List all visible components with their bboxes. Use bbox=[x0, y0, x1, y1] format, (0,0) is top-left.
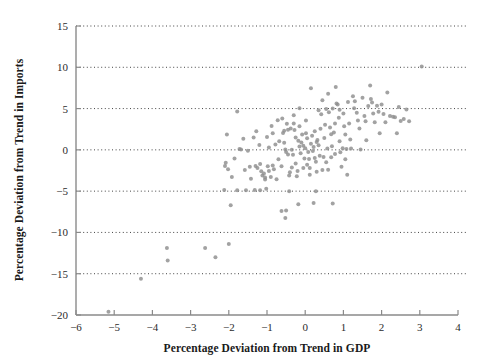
data-point bbox=[253, 188, 257, 192]
data-point bbox=[235, 188, 239, 192]
gridlines-group bbox=[76, 26, 467, 274]
data-point bbox=[294, 135, 298, 139]
data-point bbox=[344, 147, 348, 151]
data-point bbox=[347, 121, 351, 125]
data-point bbox=[314, 160, 318, 164]
x-tick-label: −6 bbox=[70, 321, 82, 333]
data-point bbox=[371, 112, 375, 116]
data-point bbox=[313, 129, 317, 133]
data-point bbox=[249, 177, 253, 181]
scatter-chart-figure: −6−5−4−3−2−101234 −20−15−10−5051015 Perc… bbox=[0, 0, 483, 364]
data-point bbox=[327, 110, 331, 114]
x-tick-label: −4 bbox=[147, 321, 159, 333]
data-point bbox=[359, 147, 363, 151]
data-point bbox=[304, 131, 308, 135]
data-point bbox=[166, 259, 170, 263]
data-point bbox=[420, 64, 424, 68]
y-tick-label: 5 bbox=[63, 103, 69, 115]
x-tick-label: 2 bbox=[379, 321, 385, 333]
data-point bbox=[364, 138, 368, 142]
data-point bbox=[299, 151, 303, 155]
data-point bbox=[320, 98, 324, 102]
data-point bbox=[263, 178, 267, 182]
data-points-group bbox=[106, 64, 423, 313]
data-point bbox=[317, 108, 321, 112]
data-point bbox=[300, 133, 304, 137]
x-tick-label: −2 bbox=[223, 321, 235, 333]
data-point bbox=[230, 175, 234, 179]
data-point bbox=[329, 155, 333, 159]
x-axis-ticks-group: −6−5−4−3−2−101234 bbox=[70, 310, 461, 333]
data-point bbox=[331, 202, 335, 206]
data-point bbox=[311, 149, 315, 153]
data-point bbox=[305, 136, 309, 140]
data-point bbox=[293, 128, 297, 132]
data-point bbox=[297, 145, 301, 149]
data-point bbox=[233, 157, 237, 161]
data-point bbox=[355, 111, 359, 115]
data-point bbox=[222, 188, 226, 192]
data-point bbox=[331, 107, 335, 111]
data-point bbox=[393, 115, 397, 119]
data-point bbox=[289, 126, 293, 130]
data-point bbox=[267, 145, 271, 149]
data-point bbox=[248, 165, 252, 169]
data-point bbox=[266, 164, 270, 168]
data-point bbox=[336, 102, 340, 106]
data-point bbox=[338, 139, 342, 143]
x-tick-label: 3 bbox=[417, 321, 423, 333]
data-point bbox=[346, 100, 350, 104]
y-axis-title: Percentage Deviation from Trend in Impor… bbox=[13, 58, 26, 281]
data-point bbox=[342, 124, 346, 128]
data-point bbox=[338, 150, 342, 154]
data-point bbox=[345, 173, 349, 177]
data-point bbox=[377, 110, 381, 114]
data-point bbox=[254, 129, 258, 133]
data-point bbox=[252, 135, 256, 139]
data-point bbox=[258, 162, 262, 166]
data-point bbox=[203, 246, 207, 250]
data-point bbox=[287, 173, 291, 177]
data-point bbox=[223, 164, 227, 168]
data-point bbox=[282, 129, 286, 133]
data-point bbox=[382, 112, 386, 116]
data-point bbox=[308, 173, 312, 177]
data-point bbox=[305, 163, 309, 167]
data-point bbox=[333, 121, 337, 125]
data-point bbox=[106, 310, 110, 314]
data-point bbox=[353, 99, 357, 103]
data-point bbox=[227, 242, 231, 246]
x-tick-label: 0 bbox=[302, 321, 308, 333]
data-point bbox=[341, 112, 345, 116]
data-point bbox=[292, 121, 296, 125]
data-point bbox=[375, 104, 379, 108]
data-point bbox=[224, 161, 228, 165]
data-point bbox=[258, 188, 262, 192]
data-point bbox=[307, 157, 311, 161]
data-point bbox=[343, 157, 347, 161]
data-point bbox=[324, 160, 328, 164]
data-point bbox=[314, 189, 318, 193]
data-point bbox=[333, 152, 337, 156]
data-point bbox=[397, 105, 401, 109]
data-point bbox=[312, 145, 316, 149]
data-point bbox=[290, 148, 294, 152]
data-point bbox=[270, 124, 274, 128]
data-point bbox=[265, 135, 269, 139]
data-point bbox=[337, 116, 341, 120]
data-point bbox=[364, 119, 368, 123]
data-point bbox=[294, 161, 298, 165]
data-point bbox=[356, 119, 360, 123]
data-point bbox=[324, 107, 328, 111]
data-point bbox=[341, 146, 345, 150]
x-tick-label: −3 bbox=[185, 321, 197, 333]
data-point bbox=[329, 132, 333, 136]
data-point bbox=[309, 142, 313, 146]
data-point bbox=[282, 141, 286, 145]
data-point bbox=[352, 106, 356, 110]
data-point bbox=[378, 131, 382, 135]
data-point bbox=[404, 107, 408, 111]
data-point bbox=[255, 166, 259, 170]
x-tick-label: 4 bbox=[455, 321, 461, 333]
data-point bbox=[213, 255, 217, 259]
